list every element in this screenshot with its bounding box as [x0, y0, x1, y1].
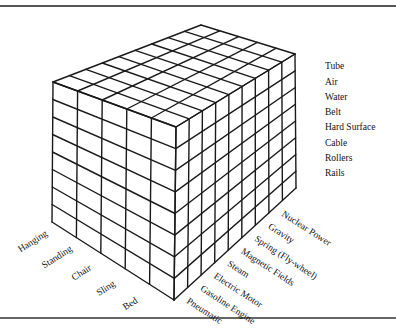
right-face-horizontal	[175, 138, 296, 235]
medium-label: Belt	[325, 107, 341, 117]
medium-label: Hard Surface	[325, 122, 375, 132]
top-face-line-a	[127, 42, 258, 109]
right-face-horizontal	[175, 121, 296, 214]
power-source-label: Steam	[226, 258, 252, 280]
medium-label: Water	[325, 92, 347, 102]
top-face-line-b	[185, 31, 282, 62]
top-face-line-a	[176, 54, 295, 127]
top-face-line-a	[78, 31, 220, 91]
support-label: Chair	[70, 262, 94, 282]
medium-label: Rollers	[325, 153, 352, 163]
support-axis-labels: HangingStandingChairSlingBed	[16, 228, 139, 312]
top-face-line-b	[53, 82, 176, 127]
medium-label: Rails	[325, 168, 345, 178]
support-label: Bed	[121, 295, 139, 312]
top-face-line-b	[201, 25, 295, 54]
support-label: Sling	[95, 278, 117, 297]
right-face-horizontal	[175, 104, 295, 192]
top-face-line-a	[151, 48, 276, 118]
top-face-line-b	[102, 63, 215, 103]
medium-label: Air	[325, 77, 338, 87]
left-face-horizontal	[52, 187, 174, 257]
left-face-horizontal	[52, 205, 174, 279]
support-label: Standing	[40, 243, 74, 270]
top-face-line-b	[69, 76, 189, 119]
top-face-line-b	[86, 69, 202, 111]
medium-label: Tube	[325, 61, 344, 71]
support-label: Hanging	[16, 228, 49, 254]
medium-label: Cable	[325, 138, 347, 148]
morphological-cube: HangingStandingChairSlingBed PneumaticGa…	[0, 0, 396, 329]
power-axis-labels: PneumaticGasoline EngineElectric MotorSt…	[185, 209, 334, 326]
right-face-horizontal	[176, 88, 296, 171]
left-face-horizontal	[52, 170, 174, 236]
